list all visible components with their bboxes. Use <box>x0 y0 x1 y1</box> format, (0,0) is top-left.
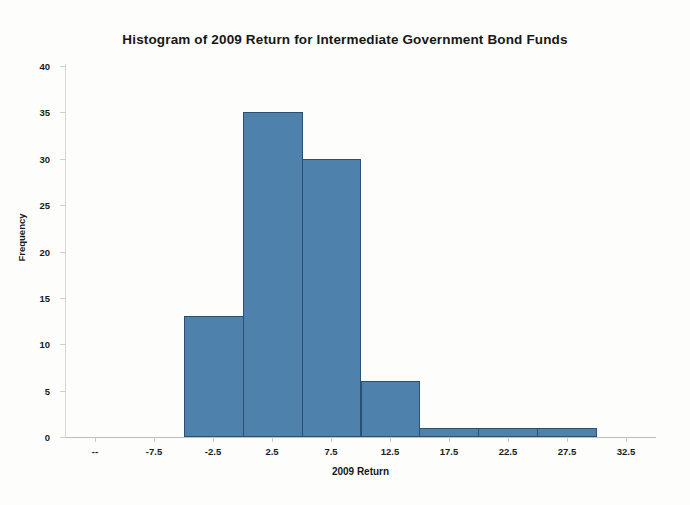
x-axis-tick-label: 32.5 <box>596 446 656 457</box>
x-axis-tick-label: 22.5 <box>478 446 538 457</box>
x-axis-tick <box>449 437 450 442</box>
x-axis-tick-label: 7.5 <box>301 446 361 457</box>
x-axis-tick <box>213 437 214 442</box>
x-axis-tick-label: -7.5 <box>124 446 184 457</box>
x-axis-tick <box>331 437 332 442</box>
plot-area <box>66 66 655 437</box>
x-axis-title: 2009 Return <box>66 466 655 477</box>
x-axis-tick <box>95 437 96 442</box>
chart-title: Histogram of 2009 Return for Intermediat… <box>0 32 690 47</box>
histogram-bar <box>184 316 244 437</box>
histogram-figure: Histogram of 2009 Return for Intermediat… <box>0 0 690 505</box>
x-axis-tick <box>626 437 627 442</box>
x-axis-tick <box>272 437 273 442</box>
histogram-bar <box>419 428 479 437</box>
x-axis-tick-label: 27.5 <box>537 446 597 457</box>
y-axis-tick-label: 5 <box>22 385 50 396</box>
histogram-bar <box>478 428 538 437</box>
y-axis-title: Frequency <box>16 193 27 283</box>
y-axis-tick <box>60 437 66 438</box>
y-axis-tick-label: 40 <box>22 61 50 72</box>
y-axis-tick-label: 35 <box>22 107 50 118</box>
y-axis-tick-label: 15 <box>22 292 50 303</box>
x-axis-tick <box>390 437 391 442</box>
y-axis-tick-label: 30 <box>22 153 50 164</box>
x-axis-tick-label: 2.5 <box>242 446 302 457</box>
x-axis-tick-label: 12.5 <box>360 446 420 457</box>
x-axis-tick <box>154 437 155 442</box>
x-axis-tick-label: -- <box>65 446 125 457</box>
x-axis-tick <box>567 437 568 442</box>
y-axis-tick-label: 0 <box>22 432 50 443</box>
histogram-bar <box>302 159 362 437</box>
histogram-bar <box>361 381 421 437</box>
y-axis-tick-label: 10 <box>22 339 50 350</box>
x-axis-tick <box>508 437 509 442</box>
histogram-bar <box>537 428 597 437</box>
x-axis-tick-label: 17.5 <box>419 446 479 457</box>
x-axis-tick-label: -2.5 <box>183 446 243 457</box>
histogram-bar <box>243 112 303 437</box>
